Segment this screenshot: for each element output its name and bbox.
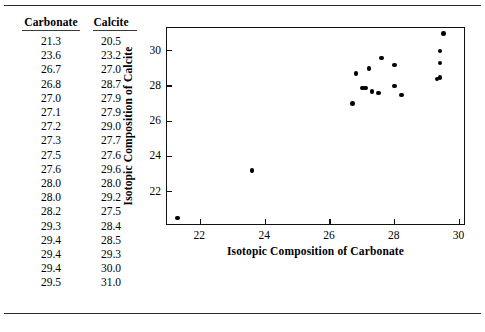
y-tick-label: 22 [145,185,161,197]
x-tick-label: 26 [323,229,335,241]
cell-calcite: 30.0 [84,261,138,275]
cell-carbonate: 27.0 [18,91,84,105]
table-row: 27.527.6 [18,148,138,162]
table-row: 27.027.9 [18,91,138,105]
table-row: 27.327.7 [18,133,138,147]
table-row: 26.828.7 [18,77,138,91]
header-underline-carbonate [22,30,80,31]
column-header-carbonate: Carbonate [18,16,84,28]
table-row: 29.428.5 [18,233,138,247]
table-row: 27.229.0 [18,119,138,133]
column-header-calcite: Calcite [84,16,138,28]
y-axis-tick-labels: 2224262830 [166,27,465,225]
cell-carbonate: 27.5 [18,148,84,162]
table-row: 29.429.3 [18,247,138,261]
table-header-row: Carbonate Calcite [18,16,138,28]
cell-calcite: 28.5 [84,233,138,247]
cell-carbonate: 29.4 [18,261,84,275]
table-row: 28.029.2 [18,190,138,204]
table-row: 28.028.0 [18,176,138,190]
cell-carbonate: 28.0 [18,176,84,190]
x-tick-label: 28 [388,229,400,241]
table-row: 28.227.5 [18,204,138,218]
figure-container: Carbonate Calcite 21.320.523.623.226.727… [0,0,485,332]
table-row: 29.328.4 [18,219,138,233]
y-axis-title: Isotopic Composition of Calcite [122,47,134,206]
cell-carbonate: 29.5 [18,275,84,289]
cell-carbonate: 29.3 [18,219,84,233]
table-row: 29.430.0 [18,261,138,275]
y-tick-label: 28 [145,79,161,91]
cell-calcite: 29.3 [84,247,138,261]
cell-carbonate: 28.0 [18,190,84,204]
cell-calcite: 28.4 [84,219,138,233]
cell-calcite: 27.5 [84,204,138,218]
x-tick-label: 30 [453,229,465,241]
y-tick-label: 26 [145,114,161,126]
cell-carbonate: 26.8 [18,77,84,91]
table-body: 21.320.523.623.226.727.026.828.727.027.9… [18,34,138,290]
cell-carbonate: 28.2 [18,204,84,218]
cell-carbonate: 27.3 [18,133,84,147]
figure-bottom-rule [4,313,481,314]
cell-carbonate: 29.4 [18,247,84,261]
table-row: 23.623.2 [18,48,138,62]
table-row: 27.127.9 [18,105,138,119]
cell-carbonate: 27.1 [18,105,84,119]
cell-carbonate: 27.2 [18,119,84,133]
header-underlines [18,30,138,31]
x-tick-label: 24 [258,229,270,241]
table-row: 21.320.5 [18,34,138,48]
cell-carbonate: 21.3 [18,34,84,48]
cell-carbonate: 27.6 [18,162,84,176]
cell-calcite: 31.0 [84,275,138,289]
y-tick-label: 30 [145,44,161,56]
table-row: 29.531.0 [18,275,138,289]
cell-carbonate: 29.4 [18,233,84,247]
header-underline-calcite [93,30,137,31]
data-table: Carbonate Calcite 21.320.523.623.226.727… [18,16,138,290]
cell-carbonate: 26.7 [18,62,84,76]
y-tick-label: 24 [145,149,161,161]
table-row: 26.727.0 [18,62,138,76]
x-tick-label: 22 [194,229,206,241]
figure-top-rule [4,5,481,6]
cell-carbonate: 23.6 [18,48,84,62]
x-axis-title: Isotopic Composition of Carbonate [166,245,465,257]
table-row: 27.629.6 [18,162,138,176]
